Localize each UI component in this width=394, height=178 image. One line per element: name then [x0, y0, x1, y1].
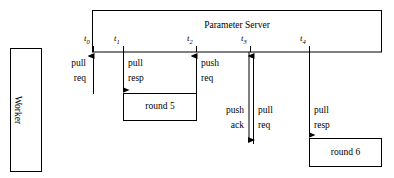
tick-label-t4-sub: 4	[303, 38, 306, 45]
message-label-pull-req-t0-line1: pull	[48, 58, 86, 69]
parameter-server-label: Parameter Server	[92, 20, 382, 30]
message-label-pull-req-t0-line2: req	[48, 73, 86, 84]
round5-label: round 5	[123, 101, 197, 111]
round6-label: round 6	[309, 147, 382, 157]
message-label-push-req-t2-line2: req	[201, 73, 213, 84]
message-label-push-ack-t3-line2: ack	[205, 120, 244, 131]
sequence-diagram: Parameter Server Worker round 5 round 6 …	[0, 0, 394, 178]
tick-label-t3: t3	[241, 33, 247, 45]
tick-label-t0-sub: 0	[87, 38, 90, 45]
tick-label-t4: t4	[300, 33, 306, 45]
tick-label-t1: t1	[114, 33, 120, 45]
tick-label-t1-sub: 1	[117, 38, 120, 45]
tick-label-t2-sub: 2	[190, 38, 193, 45]
message-label-pull-resp-t1-line2: resp	[128, 73, 144, 84]
tick-label-t2: t2	[187, 33, 193, 45]
message-label-push-ack-t3-line1: push	[205, 105, 244, 116]
tick-label-t0: t0	[84, 33, 90, 45]
message-label-pull-resp-t1-line1: pull	[128, 58, 143, 69]
message-label-pull-req-t3-line2: req	[258, 120, 270, 131]
parameter-server-box	[93, 11, 382, 53]
message-label-push-req-t2-line1: push	[201, 58, 219, 69]
tick-label-t3-sub: 3	[244, 38, 247, 45]
worker-label: Worker	[13, 57, 23, 163]
message-label-pull-resp-t4-line2: resp	[314, 120, 330, 131]
message-label-pull-resp-t4-line1: pull	[314, 105, 329, 116]
message-label-pull-req-t3-line1: pull	[258, 105, 273, 116]
